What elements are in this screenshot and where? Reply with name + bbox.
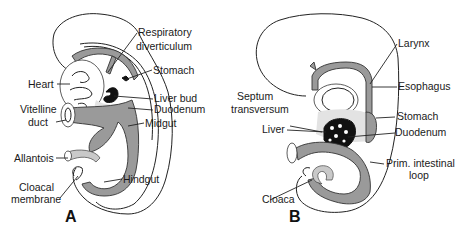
label-duodenum-b: Duodenum xyxy=(395,126,447,138)
label-intestinal-line1: Prim. intestinal xyxy=(386,157,455,169)
label-hindgut: Hindgut xyxy=(123,173,159,185)
embryo-gut-diagram: Respiratory diverticulum Stomach Heart L… xyxy=(0,0,466,234)
label-stomach-b: Stomach xyxy=(397,110,439,122)
panel-b-leader-larynx xyxy=(370,44,397,84)
label-stomach-a: Stomach xyxy=(153,64,195,76)
panel-b-cord-stump xyxy=(287,143,297,163)
panel-b-leader-intestinal xyxy=(370,162,384,164)
label-respiratory-line1: Respiratory xyxy=(138,26,192,38)
label-intestinal-line2: loop xyxy=(409,169,429,181)
panel-b-cloaca-membrane xyxy=(303,168,310,176)
panel-a-vitelline-duct xyxy=(61,103,75,127)
label-midgut: Midgut xyxy=(145,117,177,129)
label-cloacal-line1: Cloacal xyxy=(19,181,54,193)
panel-b-pharynx-bump xyxy=(310,62,316,70)
label-septum-line1: Septum xyxy=(237,90,273,102)
label-cloacal-line2: membrane xyxy=(11,193,61,205)
label-vitelline-line2: duct xyxy=(28,116,48,128)
panel-b-leader-stomach xyxy=(376,117,395,118)
panel-b-hindgut xyxy=(313,166,334,184)
panel-a-leader-hindgut xyxy=(104,179,122,182)
label-cloaca: Cloaca xyxy=(262,193,295,205)
panel-a-allantois xyxy=(68,150,100,162)
label-larynx: Larynx xyxy=(398,37,430,49)
label-allantois: Allantois xyxy=(14,152,54,164)
label-esophagus: Esophagus xyxy=(398,80,451,92)
panel-a-leader-liver-bud xyxy=(114,96,153,99)
label-respiratory-line2: diverticulum xyxy=(136,40,192,52)
panel-a: Respiratory diverticulum Stomach Heart L… xyxy=(11,14,206,225)
label-heart: Heart xyxy=(28,78,54,90)
panel-b-stomach xyxy=(366,112,377,143)
label-vitelline-line1: Vitelline xyxy=(20,103,57,115)
diagram-canvas: Respiratory diverticulum Stomach Heart L… xyxy=(0,0,466,234)
label-septum-line2: transversum xyxy=(231,103,289,115)
label-duodenum-a: Duodenum xyxy=(154,103,206,115)
panel-a-liver-bud xyxy=(104,88,118,103)
panel-label-a: A xyxy=(65,208,77,225)
panel-a-cloacal-membrane xyxy=(73,167,83,180)
label-liver: Liver xyxy=(262,123,285,135)
panel-b: Larynx Esophagus Septum transversum Stom… xyxy=(231,14,455,225)
panel-label-b: B xyxy=(289,208,301,225)
panel-a-respiratory-diverticulum xyxy=(106,56,116,74)
panel-a-allantois-opening xyxy=(65,151,72,161)
panel-a-leader-stomach xyxy=(124,70,152,80)
